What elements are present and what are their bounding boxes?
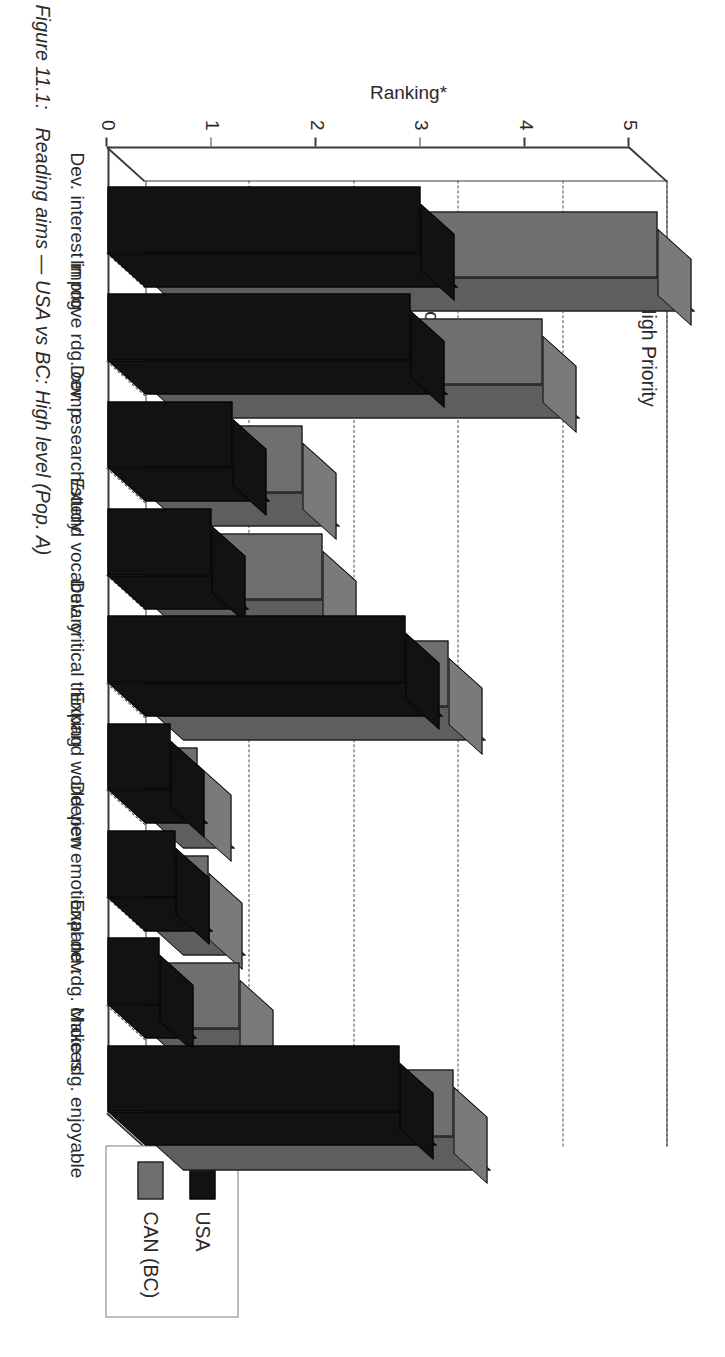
gridline-5	[666, 180, 667, 1146]
bar-usa-9	[107, 1045, 399, 1112]
chart-depth-edge-top-left	[628, 146, 667, 181]
bar-front-face	[107, 293, 410, 360]
y-tick-3	[419, 137, 421, 146]
bar-front-face	[107, 401, 232, 468]
bar-usa-8	[107, 937, 159, 1004]
y-tick-label-4: 4	[514, 90, 536, 130]
bar-front-face	[107, 830, 175, 897]
bar-side-face	[107, 682, 442, 716]
y-tick-4	[523, 137, 525, 146]
y-tick-label-2: 2	[305, 90, 327, 130]
y-tick-label-1: 1	[200, 90, 222, 130]
figure-rotation-wrapper: Figure 11.1:Reading aims — USA vs BC: Hi…	[0, 0, 725, 1357]
bar-side-face	[107, 253, 458, 287]
legend-item-can-bc: CAN (BC)	[137, 1161, 163, 1298]
y-axis-title: Ranking*	[369, 82, 446, 104]
bar-front-face	[107, 937, 159, 1004]
bar-front-face	[107, 615, 405, 682]
chart-plot-area: 543210 Ranking* High Priority Low Priori…	[107, 146, 667, 1146]
y-tick-5	[627, 137, 629, 146]
legend-label-can-bc: CAN (BC)	[139, 1211, 162, 1298]
legend-swatch-can-bc	[137, 1161, 163, 1199]
legend-label-usa: USA	[191, 1211, 214, 1251]
bar-usa-4	[107, 508, 211, 575]
chart-legend: USA CAN (BC)	[105, 1145, 238, 1317]
bar-front-face	[107, 186, 420, 253]
bar-front-face	[107, 723, 170, 790]
y-tick-1	[210, 137, 212, 146]
bar-front-face	[107, 508, 211, 575]
figure-number: Figure 11.1:	[31, 4, 53, 109]
chart-value-axis-line	[107, 146, 629, 148]
bar-usa-5	[107, 615, 405, 682]
category-label-9: Make rdg. enjoyable	[65, 1007, 87, 1178]
bar-side-face	[107, 360, 448, 394]
bar-usa-7	[107, 830, 175, 897]
bar-side-face	[107, 1111, 437, 1145]
y-tick-2	[314, 137, 316, 146]
annotation-high-priority: High Priority	[636, 300, 659, 406]
y-tick-label-5: 5	[618, 90, 640, 130]
gridline-4	[562, 180, 563, 1146]
bar-usa-1	[107, 186, 420, 253]
chart-depth-edge-bottom-left	[106, 146, 145, 181]
bar-usa-6	[107, 723, 170, 790]
bar-usa-2	[107, 293, 410, 360]
bar-front-face	[107, 1045, 399, 1112]
legend-item-usa: USA	[189, 1161, 215, 1251]
figure-caption: Figure 11.1:Reading aims — USA vs BC: Hi…	[30, 4, 53, 1004]
figure-caption-text: Reading aims — USA vs BC: High level (Po…	[31, 127, 53, 555]
y-tick-0	[105, 137, 107, 146]
bar-usa-3	[107, 401, 232, 468]
y-tick-label-0: 0	[96, 90, 118, 130]
